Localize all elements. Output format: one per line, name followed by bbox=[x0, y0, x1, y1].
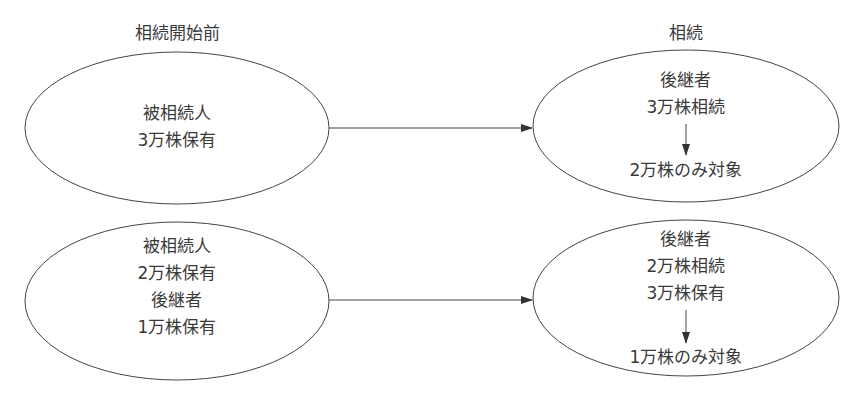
text-line: 2万株のみ対象 bbox=[630, 157, 743, 184]
case1-after-text: 後継者 3万株相続 bbox=[647, 67, 726, 121]
text-line: 後継者 bbox=[647, 67, 726, 94]
text-line: 3万株相続 bbox=[647, 94, 726, 121]
text-line: 後継者 bbox=[138, 287, 217, 314]
case1-before-text: 被相続人 3万株保有 bbox=[138, 100, 217, 154]
text-line: 3万株保有 bbox=[138, 127, 217, 154]
text-line: 2万株保有 bbox=[138, 260, 217, 287]
case1-after-result: 2万株のみ対象 bbox=[630, 157, 743, 184]
text-line: 3万株保有 bbox=[647, 280, 726, 307]
case2-after-text: 後継者 2万株相続 3万株保有 bbox=[647, 226, 726, 307]
text-line: 被相続人 bbox=[138, 100, 217, 127]
text-line: 1万株保有 bbox=[138, 314, 217, 341]
column-label-before: 相続開始前 bbox=[135, 22, 220, 44]
text-line: 後継者 bbox=[647, 226, 726, 253]
text-line: 被相続人 bbox=[138, 233, 217, 260]
case2-before-text: 被相続人 2万株保有 後継者 1万株保有 bbox=[138, 233, 217, 341]
text-line: 2万株相続 bbox=[647, 253, 726, 280]
text-line: 1万株のみ対象 bbox=[630, 344, 743, 371]
column-label-after: 相続 bbox=[669, 22, 703, 44]
case2-after-result: 1万株のみ対象 bbox=[630, 344, 743, 371]
